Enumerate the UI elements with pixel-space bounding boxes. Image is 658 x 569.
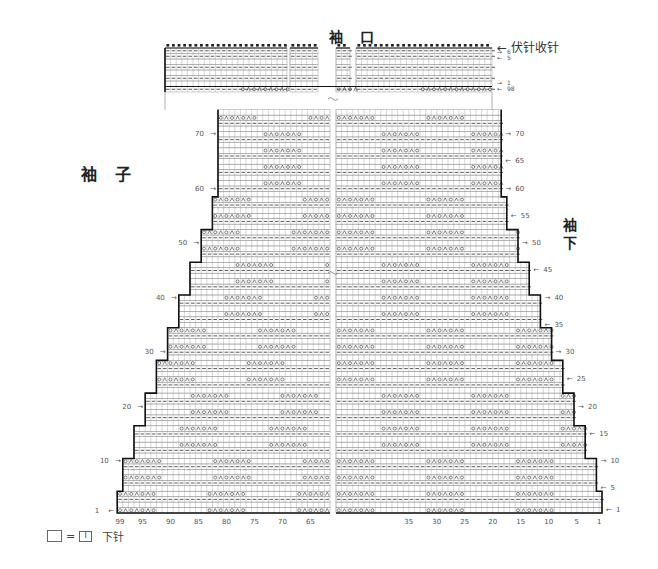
break-mark-top bbox=[328, 98, 338, 101]
arrow-icon: → bbox=[505, 130, 511, 138]
row-label-right-5: 5 bbox=[610, 484, 614, 492]
stitch-label-80: 80 bbox=[222, 518, 231, 526]
arrow-icon: → bbox=[522, 239, 528, 247]
stitch-label-65: 65 bbox=[306, 518, 315, 526]
knitting-chart: 9995908580757065353025201510511←10→20→30… bbox=[0, 0, 658, 569]
arrow-icon: → bbox=[544, 294, 550, 302]
stitch-label-75: 75 bbox=[250, 518, 259, 526]
row-label-right-45: 45 bbox=[543, 266, 552, 274]
arrow-icon: ← bbox=[497, 85, 502, 92]
arrow-icon: ← bbox=[533, 266, 539, 274]
arrow-right-icon: → bbox=[137, 403, 143, 411]
row-label-right-35: 35 bbox=[554, 321, 563, 329]
row-label-right-55: 55 bbox=[521, 212, 530, 220]
arrow-right-icon: → bbox=[115, 457, 121, 465]
legend-equals: = bbox=[66, 530, 75, 543]
row-label-left-60: 60 bbox=[195, 185, 204, 193]
row-label-right-15: 15 bbox=[599, 430, 608, 438]
stitch-label-20: 20 bbox=[488, 518, 497, 526]
arrow-right-icon: → bbox=[210, 130, 216, 138]
row-label-left-30: 30 bbox=[145, 348, 154, 356]
row-label-right-20: 20 bbox=[588, 403, 597, 411]
arrow-right-icon: → bbox=[171, 294, 177, 302]
cuff-chart bbox=[165, 44, 495, 92]
arrow-right-icon: → bbox=[160, 348, 166, 356]
row-label-left-10: 10 bbox=[100, 457, 109, 465]
arrow-icon: ← bbox=[505, 157, 511, 165]
stitch-label-70: 70 bbox=[278, 518, 287, 526]
stitch-label-99: 99 bbox=[116, 518, 125, 526]
stitch-label-90: 90 bbox=[166, 518, 175, 526]
arrow-icon: ← bbox=[567, 375, 573, 383]
row-label-left-40: 40 bbox=[156, 294, 165, 302]
arrow-icon: → bbox=[578, 403, 584, 411]
stitch-label-10: 10 bbox=[544, 518, 553, 526]
arrow-icon: ← bbox=[600, 484, 606, 492]
row-label-right-40: 40 bbox=[554, 294, 563, 302]
arrow-icon: ← bbox=[589, 430, 595, 438]
arrow-icon: → bbox=[505, 185, 511, 193]
arrow-icon: ← bbox=[511, 212, 517, 220]
arrow-icon: ← bbox=[497, 54, 502, 61]
arrow-icon: → bbox=[600, 457, 606, 465]
stitch-label-35: 35 bbox=[404, 518, 413, 526]
stitch-label-30: 30 bbox=[432, 518, 441, 526]
arrow-icon: ← bbox=[544, 321, 550, 329]
legend-knit-symbol-icon: I bbox=[79, 531, 92, 542]
row-label-left-1: 1 bbox=[95, 507, 99, 515]
arrow-right-icon: → bbox=[210, 185, 216, 193]
row-label-right-70: 70 bbox=[515, 130, 524, 138]
arrow-right-icon: → bbox=[193, 239, 199, 247]
cuff-row-label-5: 5 bbox=[507, 54, 511, 61]
stitch-symbols bbox=[118, 116, 604, 512]
row-label-right-65: 65 bbox=[515, 157, 524, 165]
arrow-icon: → bbox=[556, 348, 562, 356]
cuff-row-label-98: 98 bbox=[507, 85, 515, 92]
stitch-label-15: 15 bbox=[516, 518, 525, 526]
stitch-label-1: 1 bbox=[597, 518, 601, 526]
row-label-right-10: 10 bbox=[610, 457, 619, 465]
row-label-left-70: 70 bbox=[195, 130, 204, 138]
row-label-right-60: 60 bbox=[515, 185, 524, 193]
stitch-label-25: 25 bbox=[460, 518, 469, 526]
row-label-right-25: 25 bbox=[577, 375, 586, 383]
legend: = I 下针 bbox=[47, 529, 124, 543]
legend-blank-cell-icon bbox=[47, 530, 62, 542]
legend-text: 下针 bbox=[102, 528, 124, 544]
grid-lines bbox=[117, 110, 602, 513]
arrow-icon: ← bbox=[606, 506, 612, 514]
row-label-right-30: 30 bbox=[566, 348, 575, 356]
stitch-label-5: 5 bbox=[575, 518, 579, 526]
row-label-right-1: 1 bbox=[616, 506, 620, 514]
arrow-left-icon: ← bbox=[108, 507, 114, 515]
row-label-left-20: 20 bbox=[122, 403, 131, 411]
row-label-left-50: 50 bbox=[178, 239, 187, 247]
stitch-label-95: 95 bbox=[138, 518, 147, 526]
stitch-label-85: 85 bbox=[194, 518, 203, 526]
row-label-right-50: 50 bbox=[532, 239, 541, 247]
